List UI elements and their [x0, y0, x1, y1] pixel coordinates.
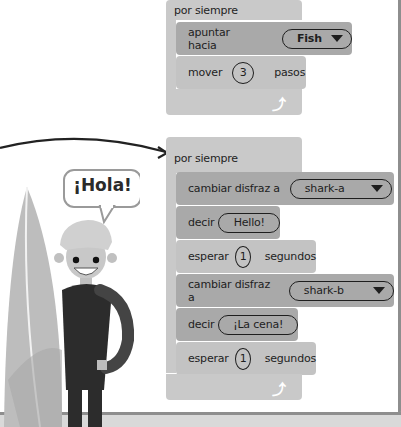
say-label: decir	[188, 318, 214, 331]
say-text-value: ¡La cena!	[233, 318, 283, 331]
point-towards-label: apuntar hacia	[188, 26, 259, 52]
steps-suffix: pasos	[274, 66, 305, 79]
chevron-down-icon	[373, 287, 385, 294]
point-towards-block[interactable]: apuntar hacia Fish	[176, 22, 352, 55]
say-text-input[interactable]: Hello!	[218, 213, 280, 233]
say-block[interactable]: decir ¡La cena!	[176, 308, 298, 341]
forever-block-arm	[166, 20, 176, 90]
speech-bubble-text: ¡Hola!	[64, 175, 141, 195]
forever-label: por siempre	[174, 152, 238, 165]
switch-costume-label: cambiar disfraz a	[188, 278, 279, 304]
say-text-value: Hello!	[234, 216, 265, 229]
target-dropdown[interactable]: Fish	[282, 29, 352, 49]
steps-input[interactable]: 3	[232, 62, 254, 84]
loop-arrow-icon: ⤴	[272, 93, 286, 113]
say-label: decir	[188, 216, 214, 229]
forever-block-foot: ⤴	[166, 374, 302, 400]
costume-dropdown-value: shark-a	[305, 182, 345, 195]
forever-block-hat[interactable]: por siempre	[166, 0, 302, 20]
wait-seconds-input[interactable]: 1	[235, 246, 251, 268]
move-steps-block[interactable]: mover 3 pasos	[176, 56, 306, 89]
costume-dropdown-value: shark-b	[304, 284, 344, 297]
script-fish-chase[interactable]: por siempre apuntar hacia Fish mover 3 p…	[166, 0, 378, 116]
forever-block-hat[interactable]: por siempre	[166, 137, 302, 173]
chevron-down-icon	[371, 185, 383, 192]
forever-label: por siempre	[174, 4, 238, 17]
steps-value: 3	[240, 66, 247, 79]
costume-dropdown[interactable]: shark-b	[289, 281, 394, 301]
wait-seconds-value: 1	[240, 250, 247, 263]
switch-costume-block[interactable]: cambiar disfraz a shark-a	[176, 172, 394, 205]
target-dropdown-value: Fish	[297, 32, 322, 45]
script-shark-costume[interactable]: por siempre cambiar disfraz a shark-a de…	[166, 137, 378, 407]
forever-block-arm	[166, 173, 176, 373]
wait-label: esperar	[188, 352, 229, 365]
wait-suffix: segundos	[265, 250, 316, 263]
wait-seconds-input[interactable]: 1	[235, 348, 251, 370]
loop-arrow-icon: ⤴	[272, 378, 286, 398]
wait-suffix: segundos	[265, 352, 316, 365]
chevron-down-icon	[331, 35, 343, 42]
wait-block[interactable]: esperar 1 segundos	[176, 240, 316, 273]
switch-costume-block[interactable]: cambiar disfraz a shark-b	[176, 274, 394, 307]
say-text-input[interactable]: ¡La cena!	[218, 315, 298, 335]
wait-block[interactable]: esperar 1 segundos	[176, 342, 316, 375]
say-block[interactable]: decir Hello!	[176, 206, 280, 239]
forever-block-foot: ⤴	[166, 89, 302, 115]
wait-label: esperar	[188, 250, 229, 263]
move-label: mover	[188, 66, 222, 79]
costume-dropdown[interactable]: shark-a	[290, 179, 392, 199]
switch-costume-label: cambiar disfraz a	[188, 182, 280, 195]
wait-seconds-value: 1	[240, 352, 247, 365]
